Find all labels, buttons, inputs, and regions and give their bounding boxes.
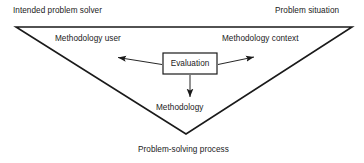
diagram-canvas: Intended problem solver Problem situatio… — [0, 0, 364, 163]
evaluation-box-label: Evaluation — [163, 53, 217, 74]
arrow-to-methodology-user — [118, 58, 162, 65]
label-methodology-context: Methodology context — [222, 35, 299, 43]
label-intended-problem-solver: Intended problem solver — [13, 7, 102, 15]
label-problem-situation: Problem situation — [275, 7, 339, 15]
label-methodology-user: Methodology user — [55, 35, 121, 43]
label-problem-solving-process: Problem-solving process — [138, 146, 229, 154]
label-methodology: Methodology — [156, 104, 203, 112]
arrow-to-methodology-context — [218, 57, 254, 65]
diagram-graphics — [0, 0, 364, 163]
